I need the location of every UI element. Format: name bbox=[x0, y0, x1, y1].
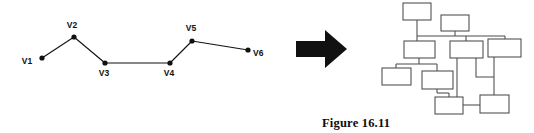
vertex-label-v1: V1 bbox=[22, 56, 33, 66]
node-link-network bbox=[382, 3, 521, 114]
figure-container: V1 V2 V3 V4 V5 V6 bbox=[0, 0, 534, 133]
network-node[interactable] bbox=[488, 39, 521, 57]
polyline-vertex-chain: V1 V2 V3 V4 V5 V6 bbox=[22, 20, 264, 78]
vertex-dot bbox=[39, 55, 44, 60]
vertex-dot bbox=[245, 47, 250, 52]
vertex-label-v4: V4 bbox=[164, 68, 175, 78]
figure-canvas: V1 V2 V3 V4 V5 V6 bbox=[0, 0, 534, 133]
figure-caption: Figure 16.11 bbox=[322, 116, 390, 130]
network-boxes bbox=[382, 3, 521, 114]
network-links bbox=[396, 20, 505, 105]
vertex-label-v3: V3 bbox=[99, 68, 110, 78]
vertex-label-v5: V5 bbox=[186, 23, 197, 33]
network-node[interactable] bbox=[404, 41, 435, 58]
vertex-label-v2: V2 bbox=[67, 20, 78, 30]
vertex-v5: V5 bbox=[186, 23, 197, 44]
network-node[interactable] bbox=[480, 95, 509, 113]
vertex-label-v6: V6 bbox=[253, 48, 264, 58]
vertex-dot bbox=[102, 60, 107, 65]
vertex-v6: V6 bbox=[245, 47, 263, 58]
network-node[interactable] bbox=[450, 41, 483, 58]
link-b4-spur bbox=[476, 58, 494, 77]
vertex-v1: V1 bbox=[22, 55, 45, 66]
network-node[interactable] bbox=[422, 71, 453, 89]
polyline-edges bbox=[42, 37, 248, 63]
vertex-dot bbox=[189, 38, 194, 43]
transformation-arrow-icon bbox=[296, 30, 347, 68]
network-node[interactable] bbox=[382, 68, 411, 85]
network-node[interactable] bbox=[403, 3, 431, 20]
vertex-dot bbox=[167, 60, 172, 65]
vertex-v2: V2 bbox=[67, 20, 78, 40]
network-node[interactable] bbox=[435, 97, 463, 114]
vertex-dot bbox=[71, 34, 76, 39]
network-node[interactable] bbox=[441, 15, 469, 31]
